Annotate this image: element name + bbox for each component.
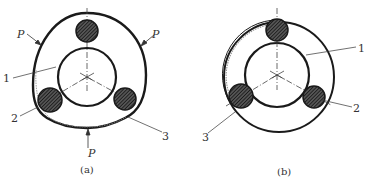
roller-top bbox=[266, 19, 288, 41]
caption-a: (a) bbox=[80, 164, 94, 175]
label-part-1: 1 bbox=[3, 72, 10, 85]
panel-a: P P P 1 2 3 (a) bbox=[3, 8, 169, 175]
figure-canvas: P P P 1 2 3 (a) 1 bbox=[0, 0, 370, 181]
panel-b: 1 2 3 (b) bbox=[202, 8, 365, 177]
label-part-2: 2 bbox=[11, 112, 18, 125]
label-part-2: 2 bbox=[353, 102, 360, 115]
label-part-1: 1 bbox=[358, 42, 365, 55]
roller-bottom-left bbox=[38, 88, 62, 112]
roller-top bbox=[76, 20, 98, 42]
label-part-3: 3 bbox=[162, 130, 169, 143]
label-part-3: 3 bbox=[202, 131, 209, 144]
label-force-top-left: P bbox=[16, 28, 25, 41]
roller-bottom-left bbox=[229, 84, 253, 108]
label-force-top-right: P bbox=[151, 28, 160, 41]
label-force-bottom: P bbox=[87, 147, 96, 160]
roller-bottom-right bbox=[114, 88, 136, 110]
roller-bottom-right bbox=[303, 86, 325, 108]
caption-b: (b) bbox=[277, 166, 291, 177]
